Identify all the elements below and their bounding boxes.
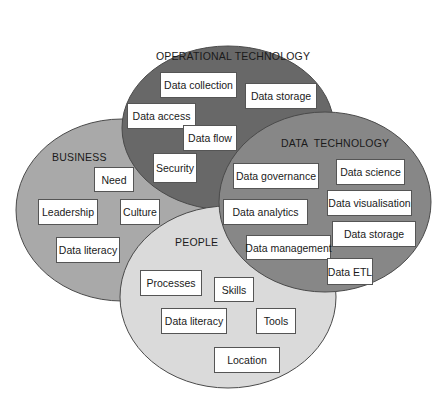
business-label: BUSINESS <box>52 151 107 163</box>
item-data-visualisation: Data visualisation <box>327 190 412 216</box>
item-data-storage-data-technology: Data storage <box>332 221 416 247</box>
data-technology-label: DATA TECHNOLOGY <box>281 137 389 149</box>
venn-diagram: OPERATIONAL TECHNOLOGY BUSINESS DATA TEC… <box>0 0 448 406</box>
item-data-management: Data management <box>246 235 331 260</box>
item-data-flow: Data flow <box>183 125 237 151</box>
item-tools: Tools <box>256 308 296 334</box>
item-processes: Processes <box>140 270 202 296</box>
item-data-storage-operational: Data storage <box>245 83 317 109</box>
item-data-analytics: Data analytics <box>223 199 308 225</box>
item-data-etl: Data ETL <box>327 258 373 285</box>
item-culture: Culture <box>120 199 160 225</box>
item-need: Need <box>94 167 134 192</box>
item-skills: Skills <box>214 277 254 302</box>
item-data-literacy-people: Data literacy <box>161 308 227 334</box>
item-data-governance: Data governance <box>233 163 319 189</box>
item-location: Location <box>214 347 280 373</box>
item-data-literacy-business: Data literacy <box>56 237 120 263</box>
people-label: PEOPLE <box>175 236 218 248</box>
item-data-science: Data science <box>336 159 405 185</box>
item-data-collection: Data collection <box>160 72 237 98</box>
operational-technology-label: OPERATIONAL TECHNOLOGY <box>156 50 310 62</box>
item-leadership: Leadership <box>38 199 98 225</box>
item-security: Security <box>153 153 197 183</box>
